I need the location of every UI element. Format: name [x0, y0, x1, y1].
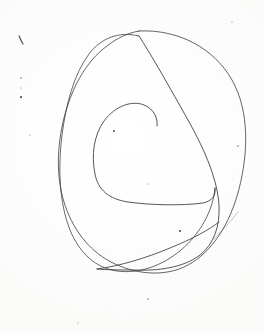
- ink-speck: [29, 134, 30, 135]
- ink-speck: [113, 130, 115, 132]
- ink-speck: [20, 77, 21, 78]
- spiral-scribble-drawing: [0, 0, 264, 333]
- ink-speck: [105, 310, 106, 311]
- diagonal-sweep-stroke: [97, 36, 219, 270]
- ink-speck: [20, 96, 22, 98]
- ink-speck: [147, 298, 148, 299]
- tick-mark-stroke: [19, 36, 23, 44]
- drawing-canvas: [0, 0, 264, 333]
- bottom-swoop-stroke: [97, 222, 219, 269]
- ink-speck: [179, 230, 181, 232]
- ink-speck: [237, 145, 238, 146]
- ink-speck: [147, 183, 148, 184]
- ink-speck: [20, 87, 21, 88]
- outer-oval-stroke: [58, 31, 245, 273]
- ink-speck: [231, 21, 232, 22]
- inner-coil-stroke: [93, 103, 215, 205]
- second-oval-stroke: [60, 34, 215, 271]
- ink-speck: [77, 322, 78, 323]
